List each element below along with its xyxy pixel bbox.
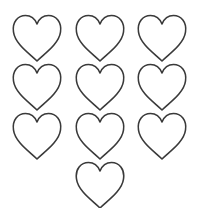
heart-outline-icon [75, 63, 125, 111]
heart-outline-icon [75, 112, 125, 160]
heart-outline-icon [137, 14, 187, 62]
heart-outline-icon [137, 63, 187, 111]
heart-outline-icon [137, 112, 187, 160]
heart-outline-icon [12, 63, 62, 111]
heart-outline-icon [12, 112, 62, 160]
heart-outline-icon [75, 14, 125, 62]
heart-outline-icon [75, 161, 125, 208]
heart-outline-icon [12, 14, 62, 62]
